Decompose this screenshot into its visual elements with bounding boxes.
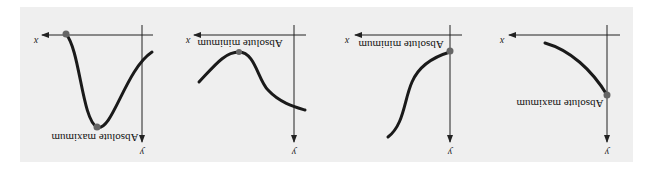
y-axis-label: y [447, 147, 453, 158]
y-axis-label: y [291, 147, 297, 158]
y-axis-label: y [604, 147, 610, 158]
y-axis-label: y [139, 147, 145, 158]
x-axis-label: x [185, 36, 191, 47]
extremum-dot [94, 124, 101, 131]
x-axis-label: x [344, 36, 350, 47]
extremum-label: Absolute minimum [197, 38, 283, 50]
x-axis-label: x [33, 36, 39, 47]
endpoint-dot [63, 31, 70, 38]
extremum-dot [604, 92, 611, 99]
extremum-dot [447, 48, 454, 55]
extremum-label: Absolute maximum [516, 98, 604, 110]
x-axis-label: x [499, 36, 505, 47]
extremum-label: Absolute minimum [358, 39, 444, 51]
extremum-label: Absolute maximum [51, 132, 139, 144]
extrema-figure: x y Absolute maximum x y Absolute minimu… [0, 0, 653, 174]
